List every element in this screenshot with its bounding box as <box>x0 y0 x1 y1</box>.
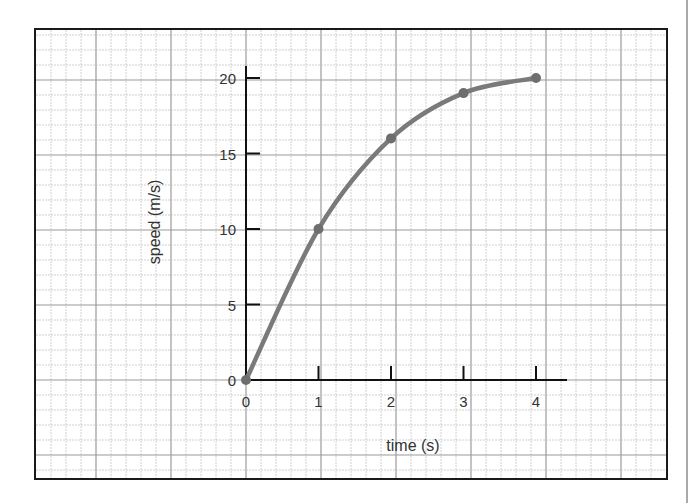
tick-labels: 0510152001234 <box>219 70 540 410</box>
data-point-marker <box>314 224 324 234</box>
x-tick-label: 1 <box>314 393 322 410</box>
y-tick-label: 20 <box>219 70 236 87</box>
y-tick-label: 0 <box>228 372 236 389</box>
y-tick-label: 15 <box>219 146 236 163</box>
data-point-marker <box>459 88 469 98</box>
x-tick-label: 2 <box>387 393 395 410</box>
y-axis-title: speed (m/s) <box>146 180 163 264</box>
x-tick-label: 3 <box>459 393 467 410</box>
data-point-marker <box>241 375 251 385</box>
x-axis-title: time (s) <box>386 437 439 454</box>
y-tick-label: 5 <box>228 297 236 314</box>
axes <box>246 66 567 380</box>
graph-paper-grid <box>36 30 666 478</box>
x-tick-label: 0 <box>242 393 250 410</box>
y-tick-label: 10 <box>219 221 236 238</box>
speed-time-chart: 0510152001234 time (s) speed (m/s) <box>0 0 695 503</box>
x-tick-label: 4 <box>532 393 540 410</box>
data-point-marker <box>386 133 396 143</box>
data-point-marker <box>531 73 541 83</box>
data-series-speed <box>241 73 541 385</box>
